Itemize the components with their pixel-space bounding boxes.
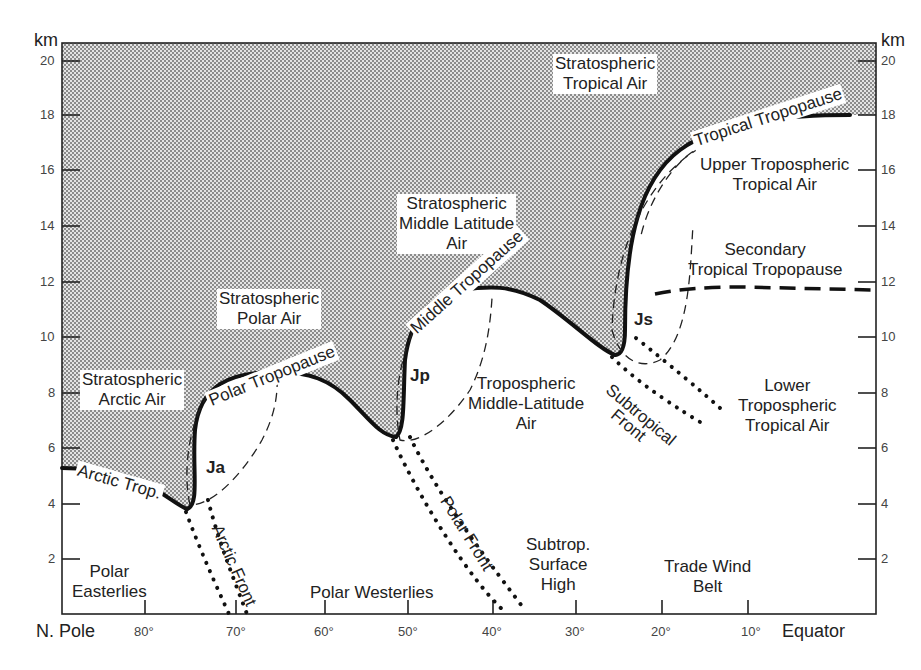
label-line: Stratospheric — [555, 54, 655, 74]
label-line: Belt — [664, 577, 751, 597]
label-subtropical-jet: Js — [634, 310, 653, 330]
label-line: Stratospheric — [82, 370, 182, 390]
label-line: Tropical Tropopause — [688, 260, 842, 280]
label-line: Polar — [72, 562, 147, 582]
label-polar-jet: Jp — [410, 366, 430, 386]
label-line: Middle-Latitude — [468, 394, 584, 414]
y-tick-label: 6 — [881, 440, 888, 455]
x-tick-label: 50° — [398, 624, 418, 639]
label-trade-wind-belt: Trade Wind Belt — [664, 557, 751, 597]
label-line: Stratospheric — [399, 194, 514, 214]
x-tick-label: 20° — [651, 624, 671, 639]
label-line: Tropical Air — [700, 175, 849, 195]
y-tick-label: 14 — [40, 218, 54, 233]
y-tick-label: 16 — [881, 162, 895, 177]
label-line: Air — [468, 414, 584, 434]
y-tick-label: 10 — [881, 329, 895, 344]
x-axis-left-end: N. Pole — [36, 621, 95, 642]
label-polar-easterlies: Polar Easterlies — [72, 562, 147, 602]
y-tick-label: 20 — [881, 53, 895, 68]
label-line: Tropospheric — [738, 396, 837, 416]
label-arctic-jet: Ja — [206, 458, 225, 478]
label-tropospheric-middle-latitude-air: Tropospheric Middle-Latitude Air — [468, 374, 584, 434]
label-line: Middle Latitude — [399, 214, 514, 234]
y-tick-label: 2 — [881, 551, 888, 566]
y-tick-label: 2 — [48, 551, 55, 566]
y-tick-label: 12 — [40, 274, 54, 289]
x-tick-label: 10° — [741, 624, 761, 639]
label-polar-westerlies: Polar Westerlies — [310, 583, 433, 603]
y-tick-label: 6 — [48, 440, 55, 455]
label-line: Tropical Air — [738, 416, 837, 436]
right-y-ticks — [858, 61, 876, 559]
label-stratospheric-tropical-air: Stratospheric Tropical Air — [553, 54, 657, 94]
label-line: Easterlies — [72, 582, 147, 602]
label-upper-tropospheric-tropical-air: Upper Tropospheric Tropical Air — [700, 155, 849, 195]
x-tick-label: 70° — [226, 624, 246, 639]
right-km-unit: km — [881, 30, 905, 51]
y-tick-label: 10 — [40, 329, 54, 344]
y-tick-label: 18 — [40, 107, 54, 122]
label-line: Polar Air — [219, 309, 319, 329]
y-tick-label: 12 — [881, 274, 895, 289]
y-tick-label: 16 — [40, 162, 54, 177]
y-tick-label: 18 — [881, 107, 895, 122]
x-tick-label: 60° — [314, 624, 334, 639]
x-tick-label: 40° — [482, 624, 502, 639]
subtropical-front-upper — [636, 338, 720, 408]
label-secondary-tropical-tropopause: Secondary Tropical Tropopause — [688, 240, 842, 280]
y-tick-label: 4 — [48, 496, 55, 511]
label-lower-tropospheric-tropical-air: Lower Tropospheric Tropical Air — [738, 376, 837, 436]
y-tick-label: 8 — [48, 385, 55, 400]
y-tick-label: 14 — [881, 218, 895, 233]
label-subtropical-surface-high: Subtrop. Surface High — [526, 535, 590, 595]
label-stratospheric-arctic-air: Stratospheric Arctic Air — [80, 370, 184, 410]
y-tick-label: 20 — [40, 53, 54, 68]
x-axis-right-end: Equator — [782, 621, 845, 642]
label-line: Secondary — [688, 240, 842, 260]
label-line: High — [526, 575, 590, 595]
y-tick-label: 4 — [881, 496, 888, 511]
label-line: Surface — [526, 555, 590, 575]
y-tick-label: 8 — [881, 385, 888, 400]
label-line: Arctic Air — [82, 390, 182, 410]
label-line: Trade Wind — [664, 557, 751, 577]
x-tick-label: 80° — [134, 624, 154, 639]
x-tick-label: 30° — [565, 624, 585, 639]
x-ticks — [145, 600, 748, 614]
left-km-unit: km — [34, 30, 58, 51]
label-line: Lower — [738, 376, 837, 396]
label-stratospheric-polar-air: Stratospheric Polar Air — [217, 289, 321, 329]
label-line: Tropospheric — [468, 374, 584, 394]
label-line: Tropical Air — [555, 74, 655, 94]
label-line: Upper Tropospheric — [700, 155, 849, 175]
label-line: Stratospheric — [219, 289, 319, 309]
label-line: Subtrop. — [526, 535, 590, 555]
